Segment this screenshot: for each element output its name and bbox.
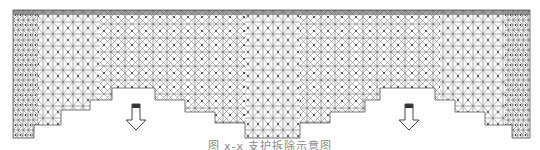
lattice-body bbox=[0, 0, 540, 150]
lattice-structure-diagram bbox=[0, 0, 540, 150]
right-down-arrow-icon bbox=[399, 104, 419, 130]
figure-caption: 图 x-x 支护拆除示意图 bbox=[0, 140, 540, 150]
left-down-arrow-icon bbox=[126, 104, 146, 130]
